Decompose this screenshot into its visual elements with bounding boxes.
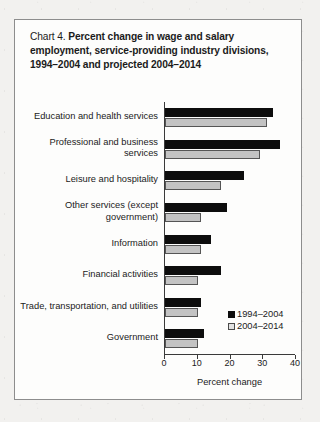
- chart-figure: Chart 4. Percent change in wage and sala…: [14, 19, 302, 400]
- x-axis-tick-label: 40: [290, 358, 300, 368]
- bar-series-1994-2004: [165, 329, 204, 338]
- category-label: Other services (except government): [15, 200, 158, 223]
- x-axis-tick-label: 10: [192, 358, 202, 368]
- bar-group: [165, 165, 296, 197]
- legend-label: 1994–2004: [237, 308, 284, 320]
- bar-series-1994-2004: [165, 203, 227, 212]
- category-label: Professional and business services: [15, 137, 158, 160]
- category-label: Leisure and hospitality: [15, 174, 158, 185]
- legend-swatch-icon: [228, 311, 235, 318]
- bar-series-1994-2004: [165, 171, 244, 180]
- x-axis-title: Percent change: [164, 377, 295, 387]
- bar-series-2004-2014: [165, 276, 198, 285]
- bar-series-1994-2004: [165, 298, 201, 307]
- legend-item-2004-2014: 2004–2014: [228, 320, 284, 332]
- chart-title-lead: Chart 4.: [30, 31, 65, 42]
- chart-title-main: Percent change in wage and salary employ…: [30, 31, 269, 70]
- scanned-page: Chart 4. Percent change in wage and sala…: [0, 0, 320, 422]
- category-label: Trade, transportation, and utilities: [15, 301, 158, 312]
- bar-series-2004-2014: [165, 213, 201, 222]
- legend-label: 2004–2014: [237, 320, 284, 332]
- category-label: Government: [15, 332, 158, 343]
- bar-series-1994-2004: [165, 235, 211, 244]
- bar-series-2004-2014: [165, 181, 221, 190]
- legend-item-1994-2004: 1994–2004: [228, 308, 284, 320]
- x-axis-tick-label: 30: [257, 358, 267, 368]
- bar-series-2004-2014: [165, 308, 198, 317]
- bar-series-1994-2004: [165, 140, 280, 149]
- bar-group: [165, 197, 296, 229]
- bar-group: [165, 134, 296, 166]
- bar-group: [165, 102, 296, 134]
- bar-series-2004-2014: [165, 339, 198, 348]
- bar-series-1994-2004: [165, 266, 221, 275]
- bar-group: [165, 260, 296, 292]
- category-axis-labels: Education and health servicesProfessiona…: [15, 102, 158, 355]
- x-axis-tick-label: 20: [224, 358, 234, 368]
- chart-title: Chart 4. Percent change in wage and sala…: [30, 30, 282, 73]
- chart-legend: 1994–2004 2004–2014: [228, 308, 284, 333]
- bar-series-1994-2004: [165, 108, 273, 117]
- category-label: Financial activities: [15, 269, 158, 280]
- bar-series-2004-2014: [165, 245, 201, 254]
- category-label: Education and health services: [15, 111, 158, 122]
- bar-group: [165, 229, 296, 261]
- category-label: Information: [15, 238, 158, 249]
- bar-series-2004-2014: [165, 150, 260, 159]
- x-axis-tick-label: 0: [161, 358, 166, 368]
- legend-swatch-icon: [228, 323, 235, 330]
- bar-series-2004-2014: [165, 118, 267, 127]
